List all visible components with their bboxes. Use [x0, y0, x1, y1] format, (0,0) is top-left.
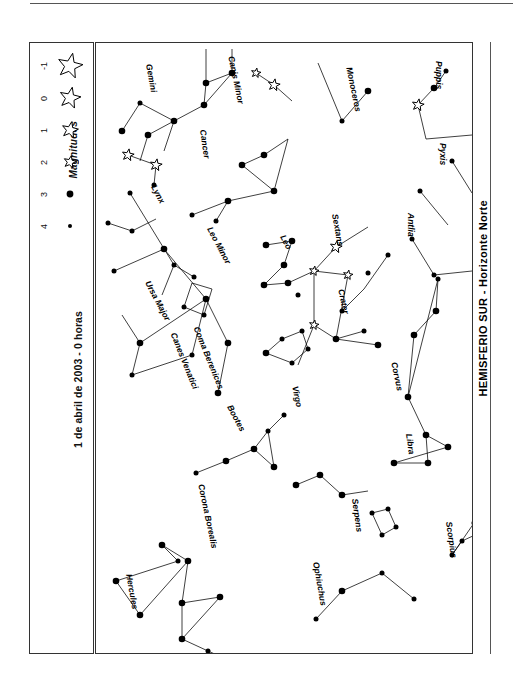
star-marker-mag-1: [344, 270, 353, 279]
star-marker-mag-1: [310, 320, 319, 329]
star-marker-mag-2: [333, 336, 340, 343]
star-marker-mag-2: [161, 246, 168, 253]
right-rule: [490, 42, 491, 654]
legend-row-magnitude-0: 0: [30, 81, 95, 115]
star-marker-mag-3: [300, 329, 305, 334]
star-marker-mag-3: [128, 191, 133, 196]
asterism-line: [208, 651, 256, 653]
star-marker-mag-3: [314, 617, 319, 622]
asterism-line: [394, 397, 448, 463]
page-title: HEMISFERIO SUR - Horizonte Norte: [477, 200, 489, 397]
star-marker-mag-3: [386, 507, 391, 512]
star-marker-mag-3: [206, 649, 211, 654]
star-marker-mag-2: [405, 394, 412, 401]
star-chart-sheet: Magnitudes 1 de abril de 2003 - 0 horas …: [0, 0, 513, 689]
star-marker-mag-2: [375, 342, 382, 349]
star-marker-mag-2: [239, 162, 246, 169]
asterism-line: [420, 191, 448, 225]
star-marker-mag-2: [261, 152, 268, 159]
star-marker-mag-2: [145, 132, 152, 139]
star-marker-mag-2: [293, 482, 300, 489]
star-marker-mag-2: [119, 128, 126, 135]
legend-magnitude-value: 0: [36, 89, 52, 107]
legend-row-magnitude-1: 1: [30, 113, 95, 147]
top-rule: [30, 3, 513, 4]
asterism-line: [342, 573, 414, 599]
star-icon: [54, 115, 86, 145]
star-icon: [54, 147, 86, 177]
star-marker-mag-3: [190, 213, 195, 218]
star-marker-mag-2: [285, 280, 292, 287]
star-marker-mag-3: [444, 69, 449, 74]
star-marker-mag-2: [425, 460, 432, 467]
asterism-line: [128, 155, 156, 185]
star-marker-mag-2: [215, 390, 222, 397]
asterism-line: [266, 331, 308, 363]
star-marker-mag-3: [106, 221, 111, 226]
asterism-line: [148, 73, 232, 135]
star-marker-mag-3: [432, 273, 437, 278]
magnitude-legend-panel: Magnitudes 1 de abril de 2003 - 0 horas …: [29, 42, 94, 654]
asterism-line: [204, 73, 232, 105]
star-marker-mag-3: [366, 271, 371, 276]
star-marker-mag-3: [190, 353, 195, 358]
star-marker-mag-3: [112, 269, 117, 274]
constellation-map: [96, 43, 472, 653]
star-marker-mag-3: [306, 347, 311, 352]
asterism-line: [372, 509, 396, 535]
star-marker-mag-2: [339, 492, 346, 499]
asterism-line: [216, 191, 274, 221]
asterism-line: [452, 161, 472, 193]
star-marker-mag-3: [182, 305, 187, 310]
star-marker-mag-2: [137, 612, 144, 619]
star-marker-mag-1: [252, 68, 261, 77]
star-marker-mag-2: [339, 588, 346, 595]
star-marker-mag-3: [214, 219, 219, 224]
asterism-line: [122, 103, 174, 131]
star-marker-mag-3: [460, 539, 465, 544]
legend-magnitude-value: 1: [36, 121, 52, 139]
asterism-line: [254, 431, 268, 449]
star-marker-mag-3: [472, 521, 473, 526]
star-marker-mag-3: [194, 471, 199, 476]
asterism-line: [418, 71, 472, 139]
legend-magnitude-value: 3: [36, 185, 52, 203]
star-marker-mag-3: [176, 559, 181, 564]
star-marker-mag-2: [391, 460, 398, 467]
star-marker-mag-3: [362, 329, 367, 334]
legend-magnitude-value: -1: [36, 57, 52, 75]
asterism-line: [130, 193, 194, 277]
star-marker-mag-2: [445, 444, 452, 451]
asterism-line: [182, 561, 220, 651]
star-marker-mag-3: [380, 533, 385, 538]
star-marker-mag-3: [296, 293, 301, 298]
legend-row-magnitude-minus1: -1: [30, 49, 95, 83]
star-marker-mag-2: [263, 242, 270, 249]
star-marker-mag-2: [171, 118, 178, 125]
star-marker-mag-2: [201, 102, 208, 109]
star-marker-mag-2: [217, 594, 224, 601]
star-marker-mag-2: [411, 332, 418, 339]
star-marker-mag-2: [113, 578, 120, 585]
star-marker-mag-2: [271, 464, 278, 471]
star-marker-mag-2: [185, 558, 192, 565]
star-marker-mag-2: [251, 446, 258, 453]
asterism-line: [318, 63, 368, 121]
star-marker-mag-2: [203, 296, 210, 303]
star-marker-mag-2: [223, 458, 230, 465]
asterism-line: [426, 435, 448, 447]
star-marker-mag-3: [290, 361, 295, 366]
star-marker-mag-2: [225, 340, 232, 347]
chart-date-caption: 1 de abril de 2003 - 0 horas: [72, 311, 84, 448]
asterism-line: [162, 265, 174, 295]
star-marker-mag-0: [151, 159, 163, 171]
star-marker-mag-2: [317, 472, 324, 479]
dot-icon: [54, 211, 86, 241]
asterism-line: [336, 339, 378, 345]
asterism-line: [408, 279, 438, 397]
star-marker-mag-2: [433, 308, 440, 315]
star-marker-mag-3: [418, 189, 423, 194]
star-marker-mag-0: [123, 149, 135, 161]
star-marker-mag-3: [436, 277, 441, 282]
star-marker-mag-2: [179, 636, 186, 643]
